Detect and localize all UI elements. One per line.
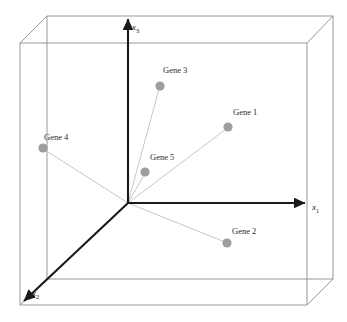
gene-vectors — [45, 89, 226, 242]
vector-gene-3 — [128, 89, 159, 203]
cube-front-face — [20, 43, 307, 305]
axis-label-x3: x3 — [132, 23, 139, 34]
axis-label-x2: x2 — [32, 289, 39, 300]
marker-gene-2 — [222, 238, 231, 247]
gene-label-4: Gene 4 — [44, 133, 68, 142]
gene-label-5: Gene 5 — [150, 153, 174, 162]
vector-gene-1 — [128, 129, 226, 203]
gene-vector-space-figure: x1 x2 x3 Gene 1 Gene 2 Gene 3 Gene 4 Gen… — [0, 0, 347, 322]
vector-gene-5 — [128, 175, 144, 203]
axis-label-x1-sub: 1 — [316, 207, 319, 214]
gene-label-3: Gene 3 — [163, 66, 187, 75]
gene-label-2: Gene 2 — [232, 227, 256, 236]
marker-gene-1 — [223, 122, 232, 131]
marker-gene-3 — [155, 81, 164, 90]
cube-edge-top-left — [20, 16, 47, 43]
marker-gene-5 — [140, 167, 149, 176]
gene-label-1: Gene 1 — [233, 108, 257, 117]
axis-x2 — [24, 203, 128, 301]
axis-label-x3-sub: 3 — [136, 27, 139, 34]
vector-gene-4 — [45, 150, 128, 203]
vector-gene-2 — [128, 203, 225, 242]
cube-edge-bottom-right — [307, 279, 333, 305]
cube-edge-top-right — [307, 16, 333, 43]
axis-label-x1: x1 — [312, 203, 319, 214]
marker-gene-4 — [38, 143, 47, 152]
axis-label-x2-sub: 2 — [36, 293, 39, 300]
